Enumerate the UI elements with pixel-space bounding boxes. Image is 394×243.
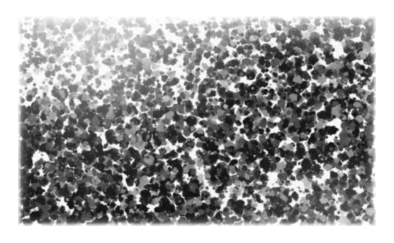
micrograph-plate <box>18 16 376 226</box>
figure-root <box>0 0 394 243</box>
micrograph-image <box>18 16 376 226</box>
